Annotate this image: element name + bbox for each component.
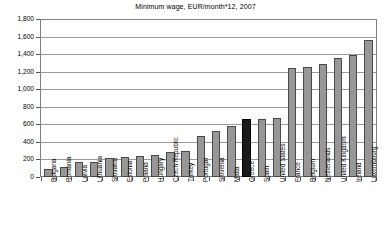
x-axis-label-malta: Malta [234, 166, 240, 182]
x-axis-label-portugal: Portugal [203, 158, 209, 182]
x-axis-label-netherlands: Netherlands [325, 148, 331, 182]
x-axis-label-lithuania: Lithuania [97, 156, 103, 182]
x-axis-label-slovenia: Slovenia [219, 157, 225, 182]
chart-title: Minimum wage, EUR/month*12, 2007 [0, 3, 391, 10]
y-axis-tick-label: 1,600 [17, 33, 34, 40]
y-axis-tick-label: 1,000 [17, 86, 34, 93]
x-axis-label-estonia: Estonia [127, 161, 133, 182]
y-axis-tick-label: 200 [23, 156, 34, 163]
y-axis-tick-label: 1,800 [17, 16, 34, 23]
y-axis-tick-label: 400 [23, 139, 34, 146]
x-axis-label-turkey: Turkey [188, 163, 194, 182]
x-axis-label-romania: Romania [66, 156, 72, 182]
y-axis-tick-label: 1,400 [17, 51, 34, 58]
chart-container: Minimum wage, EUR/month*12, 2007 0200400… [0, 0, 391, 250]
x-axis-label-luxembourg: Luxembourg [371, 146, 377, 182]
y-axis-tick-label: 600 [23, 121, 34, 128]
x-axis-label-united-states: United States [280, 144, 286, 182]
bar-france [288, 68, 296, 177]
x-axis-label-ireland: Ireland [356, 162, 362, 182]
x-axis-label-belgium: Belgium [310, 159, 316, 182]
y-axis-tick-mark [36, 177, 40, 178]
x-axis-label-czech-republic: Czech Republic [173, 137, 179, 182]
x-axis-tick-mark [41, 177, 42, 181]
bar-ireland [349, 55, 357, 177]
x-axis-label-greece: Greece [249, 161, 255, 182]
x-axis-label-united-kingdom: United Kingdom [341, 137, 347, 182]
y-axis-tick-label: 0 [30, 174, 34, 181]
x-axis-label-slovakia: Slovakia [112, 158, 118, 182]
x-axis-label-bulgaria: Bulgaria [51, 159, 57, 182]
y-axis-tick-label: 800 [23, 103, 34, 110]
x-axis-label-spain: Spain [264, 166, 270, 182]
x-axis-label-poland: Poland [143, 162, 149, 182]
x-axis-label-france: France [295, 162, 301, 182]
x-axis-labels: BulgariaRomaniaLatviaLithuaniaSlovakiaEs… [41, 182, 376, 250]
y-axis: 02004006008001,0001,2001,4001,6001,800 [0, 19, 37, 177]
x-axis-label-hungary: Hungary [158, 158, 164, 182]
y-axis-tick-label: 1,200 [17, 68, 34, 75]
x-axis-label-latvia: Latvia [82, 165, 88, 182]
